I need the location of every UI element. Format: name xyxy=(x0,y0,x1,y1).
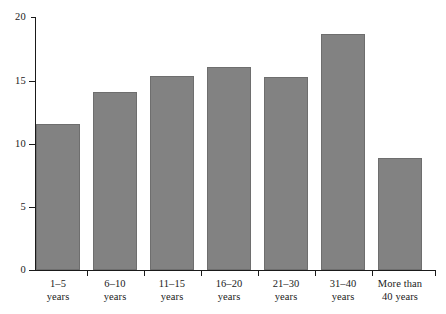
x-tick-6 xyxy=(372,271,373,276)
x-axis-label-line2: years xyxy=(315,291,372,304)
x-axis-label-line1: More than xyxy=(372,278,429,291)
bar-7 xyxy=(378,158,422,270)
x-axis-label-line2: years xyxy=(201,291,258,304)
x-axis-label-6: 31–40years xyxy=(315,278,372,303)
x-axis-end-tick xyxy=(435,271,436,276)
bar-6 xyxy=(321,34,365,270)
x-tick-1 xyxy=(87,271,88,276)
x-axis-label-line1: 11–15 xyxy=(144,278,201,291)
bars-group xyxy=(0,0,446,314)
bar-chart: 0 5 10 15 20 1–5years6–10years11–15years… xyxy=(0,0,446,314)
x-axis-label-line1: 16–20 xyxy=(201,278,258,291)
x-axis-label-line1: 31–40 xyxy=(315,278,372,291)
x-tick-4 xyxy=(258,271,259,276)
x-axis-label-line2: 40 years xyxy=(372,291,429,304)
x-axis-label-line2: years xyxy=(144,291,201,304)
x-axis-label-line1: 21–30 xyxy=(258,278,315,291)
x-axis-label-line2: years xyxy=(30,291,87,304)
x-axis-label-line2: years xyxy=(258,291,315,304)
x-tick-5 xyxy=(315,271,316,276)
x-tick-3 xyxy=(201,271,202,276)
bar-4 xyxy=(207,67,251,270)
x-axis-label-1: 1–5years xyxy=(30,278,87,303)
x-axis-label-4: 16–20years xyxy=(201,278,258,303)
bar-1 xyxy=(36,124,80,270)
x-axis-label-line2: years xyxy=(87,291,144,304)
x-axis-label-line1: 6–10 xyxy=(87,278,144,291)
x-tick-2 xyxy=(144,271,145,276)
x-axis-label-5: 21–30years xyxy=(258,278,315,303)
bar-5 xyxy=(264,77,308,270)
bar-3 xyxy=(150,76,194,270)
x-axis-label-3: 11–15years xyxy=(144,278,201,303)
x-axis-label-line1: 1–5 xyxy=(30,278,87,291)
bar-2 xyxy=(93,92,137,270)
x-axis-label-7: More than40 years xyxy=(372,278,429,303)
x-axis-label-2: 6–10years xyxy=(87,278,144,303)
